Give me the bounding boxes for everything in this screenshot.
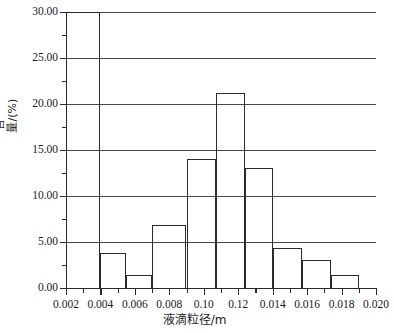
x-tick-minor bbox=[324, 289, 325, 293]
y-tick-label: 25.00 bbox=[0, 52, 58, 64]
y-tick-label-text: 30.00 bbox=[32, 6, 58, 18]
x-tick-minor bbox=[83, 289, 84, 293]
y-tick-label-text: 15.00 bbox=[32, 144, 58, 156]
histogram-bar bbox=[126, 275, 152, 288]
y-axis-title: 含量/(%) bbox=[0, 112, 14, 137]
y-axis-line bbox=[66, 12, 67, 289]
gridline bbox=[66, 12, 376, 13]
histogram-bar bbox=[187, 159, 216, 288]
x-tick-minor bbox=[221, 289, 222, 293]
histogram-bar bbox=[245, 168, 273, 288]
y-tick-label-text: 5.00 bbox=[38, 236, 58, 248]
y-tick-label: 0.00 bbox=[0, 282, 58, 294]
x-axis-title-text: 液滴粒径/m bbox=[163, 313, 227, 327]
x-tick-major bbox=[100, 289, 101, 295]
x-tick-label: 0.020 bbox=[356, 298, 394, 310]
y-tick-label: 20.00 bbox=[0, 98, 58, 110]
y-tick-label-text: 10.00 bbox=[32, 190, 58, 202]
y-tick-label-text: 20.00 bbox=[32, 98, 58, 110]
x-tick-major bbox=[238, 289, 239, 295]
y-tick-label-text: 0.00 bbox=[38, 282, 58, 294]
x-tick-minor bbox=[187, 289, 188, 293]
y-tick-label: 30.00 bbox=[0, 6, 58, 18]
x-axis-title: 液滴粒径/m bbox=[0, 313, 389, 327]
x-axis-tick-marks bbox=[66, 289, 377, 297]
gridline bbox=[66, 58, 376, 59]
histogram-bar bbox=[273, 248, 302, 288]
plot-area bbox=[66, 12, 376, 288]
x-tick-major bbox=[376, 289, 377, 295]
histogram-bar bbox=[216, 93, 245, 288]
x-tick-major bbox=[135, 289, 136, 295]
x-tick-major bbox=[66, 289, 67, 295]
x-tick-major bbox=[342, 289, 343, 295]
x-tick-minor bbox=[290, 289, 291, 293]
y-axis-title-text: 含量/(%) bbox=[0, 117, 19, 133]
x-tick-major bbox=[273, 289, 274, 295]
x-tick-major bbox=[169, 289, 170, 295]
x-tick-minor bbox=[152, 289, 153, 293]
x-tick-minor bbox=[255, 289, 256, 293]
y-tick-label: 10.00 bbox=[0, 190, 58, 202]
histogram-bar bbox=[66, 12, 100, 288]
x-tick-minor bbox=[118, 289, 119, 293]
x-tick-major bbox=[204, 289, 205, 295]
histogram-bar bbox=[331, 275, 359, 288]
histogram-bar bbox=[100, 253, 126, 288]
y-tick-label: 5.00 bbox=[0, 236, 58, 248]
x-tick-minor bbox=[359, 289, 360, 293]
y-tick-label-text: 25.00 bbox=[32, 52, 58, 64]
histogram-bar bbox=[152, 225, 186, 288]
x-tick-major bbox=[307, 289, 308, 295]
histogram-bar bbox=[302, 260, 331, 289]
y-tick-label: 15.00 bbox=[0, 144, 58, 156]
